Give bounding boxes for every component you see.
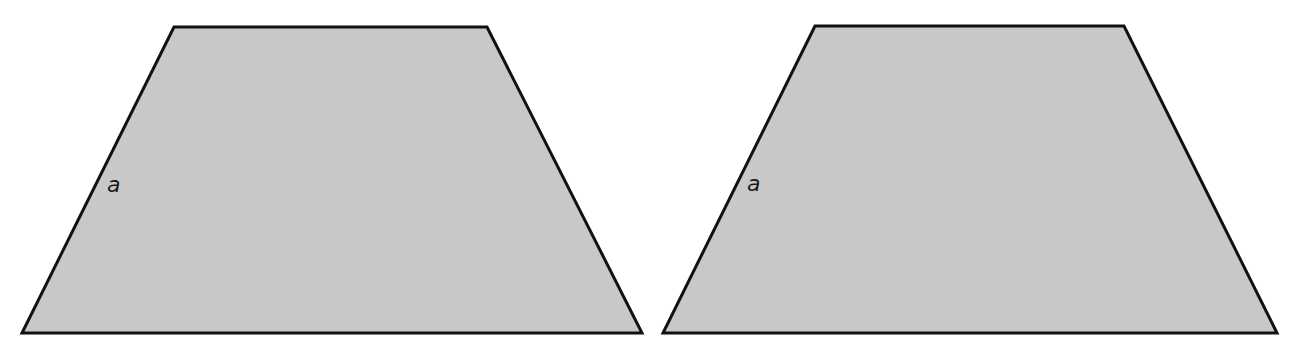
trapezoid-left: a <box>22 27 642 333</box>
side-label-a-left: a <box>107 172 120 197</box>
trapezoid-figures: a a <box>0 0 1302 351</box>
trapezoid-right: a <box>663 26 1277 333</box>
side-label-a-right: a <box>747 171 760 196</box>
